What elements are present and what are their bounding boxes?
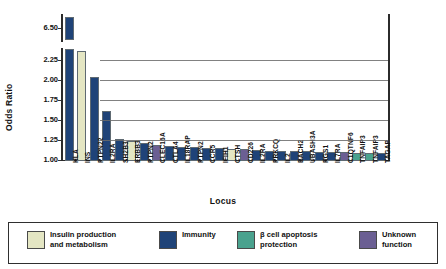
- x-tick-label: PTPN2: [147, 141, 154, 163]
- gridline: [100, 140, 388, 141]
- x-tick-label: IL7RA: [334, 143, 341, 163]
- x-tick-label: RGS1: [322, 145, 329, 163]
- bar: [77, 51, 86, 161]
- legend-label: Insulin production and metabolism: [50, 230, 116, 249]
- y-tick-label: 1.25: [24, 136, 58, 144]
- x-tick-label: IL2RA: [109, 143, 116, 163]
- gridline: [100, 120, 388, 121]
- gridline: [100, 60, 388, 61]
- x-tick-label: UBASH3A: [309, 130, 316, 163]
- legend-item: Insulin production and metabolism: [27, 230, 116, 249]
- bar-top-segment: [65, 17, 74, 40]
- y-tick-label: 1.00: [24, 156, 58, 164]
- x-tick-label: SH2B3: [122, 141, 129, 163]
- y-tick-label: 1.75: [24, 96, 58, 104]
- x-tick-label: IL2: [284, 153, 291, 163]
- bar: [65, 49, 74, 161]
- legend-swatch: [237, 231, 255, 249]
- x-tick-label: PTPN2: [197, 141, 204, 163]
- x-tick-label: TAGAP: [384, 140, 391, 163]
- x-tick-label: PTPN22: [97, 137, 104, 163]
- y-tick-label: 6.50: [24, 24, 58, 32]
- y-tick-label: 1.50: [24, 116, 58, 124]
- x-tick-label: CTLA4: [172, 141, 179, 163]
- x-tick-label: IFIH1: [222, 146, 229, 163]
- bar-series: [63, 14, 388, 161]
- legend-label: Unknown function: [382, 230, 416, 249]
- legend: Insulin production and metabolismImmunit…: [8, 222, 438, 264]
- legend-swatch: [159, 231, 177, 249]
- legend-label: Immunity: [182, 230, 216, 240]
- y-tick-label: 2.00: [24, 76, 58, 84]
- x-tick-label: CD226: [247, 142, 254, 163]
- gridline: [100, 100, 388, 101]
- x-tick-label: ERBB3: [134, 140, 141, 163]
- x-tick-label: C1QTNF6: [347, 132, 354, 163]
- gridline: [100, 80, 388, 81]
- x-tick-label: IL2RA: [259, 143, 266, 163]
- plot-area: Odds Ratio 6.502.252.001.751.501.251.00 …: [0, 0, 446, 212]
- x-tick-label: INS: [84, 152, 91, 163]
- legend-item: Unknown function: [359, 230, 416, 249]
- x-tick-label: CLEC16A: [159, 132, 166, 163]
- y-axis-title: Odds Ratio: [2, 52, 16, 162]
- legend-label: β cell apoptosis protection: [260, 230, 317, 249]
- legend-item: Immunity: [159, 230, 216, 249]
- x-tick-label: CTSH: [234, 145, 241, 163]
- legend-swatch: [359, 231, 377, 249]
- x-tick-label: CCR5: [209, 145, 216, 163]
- odds-ratio-bar-chart: Odds Ratio 6.502.252.001.751.501.251.00 …: [0, 0, 446, 269]
- y-tick-label: 2.25: [24, 56, 58, 64]
- x-tick-label: HLA: [72, 149, 79, 163]
- x-axis-title: Locus: [0, 196, 446, 206]
- legend-item: β cell apoptosis protection: [237, 230, 317, 249]
- y-axis-ticks: 6.502.252.001.751.501.251.00: [18, 0, 58, 212]
- x-tick-label: PRKCQ: [272, 139, 279, 163]
- legend-swatch: [27, 231, 45, 249]
- x-tick-label: BACH2: [297, 140, 304, 163]
